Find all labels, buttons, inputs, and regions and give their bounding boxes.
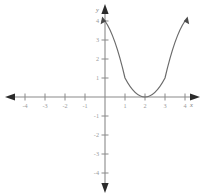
coordinate-plane-graph: -4 -3 -2 -1 1 2 3 4 4 3 2 1 -1 -2 -3 -4 … [0, 0, 205, 196]
x-axis-left-arrow-icon [5, 93, 15, 100]
x-tick-label-4: 4 [183, 102, 186, 109]
y-tick-label--1: -1 [94, 112, 99, 119]
y-tick-label-1: 1 [96, 74, 99, 81]
x-tick-label-1: 1 [123, 102, 126, 109]
y-axis-down-arrow-icon [101, 183, 108, 193]
x-axis-right-arrow-icon [190, 93, 200, 100]
x-tick-label-2: 2 [143, 102, 146, 109]
x-tick-label--4: -4 [22, 102, 27, 109]
x-axis-label: x [189, 101, 193, 108]
y-tick-label--3: -3 [94, 150, 99, 157]
y-tick-label-3: 3 [96, 36, 99, 43]
y-axis-label: y [95, 6, 99, 13]
y-tick-label-2: 2 [96, 55, 99, 62]
y-tick-label--2: -2 [94, 131, 99, 138]
parabola-plot-svg: -4 -3 -2 -1 1 2 3 4 4 3 2 1 -1 -2 -3 -4 … [0, 0, 205, 196]
x-tick-label--3: -3 [42, 102, 47, 109]
parabola-right-arrow-icon [184, 17, 190, 25]
x-tick-label--1: -1 [82, 102, 87, 109]
x-tick-label--2: -2 [62, 102, 67, 109]
x-tick-label-3: 3 [163, 102, 166, 109]
y-axis-up-arrow-icon [101, 4, 108, 14]
y-tick-label--4: -4 [94, 169, 99, 176]
y-tick-label-4: 4 [96, 17, 99, 24]
parabola-curve [103, 20, 186, 97]
